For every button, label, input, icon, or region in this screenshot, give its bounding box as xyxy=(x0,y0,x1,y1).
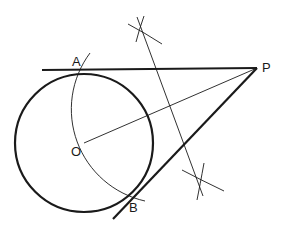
geometry-diagram: A P O B xyxy=(0,0,281,228)
label-a: A xyxy=(72,54,81,69)
tangent-line-bp xyxy=(113,68,257,219)
bisector-arc-lower-1 xyxy=(182,170,224,191)
label-p: P xyxy=(262,60,271,75)
label-o: O xyxy=(71,144,81,159)
label-b: B xyxy=(129,200,138,215)
bisector-arc-upper-1 xyxy=(128,24,162,44)
construction-arc xyxy=(71,53,145,201)
